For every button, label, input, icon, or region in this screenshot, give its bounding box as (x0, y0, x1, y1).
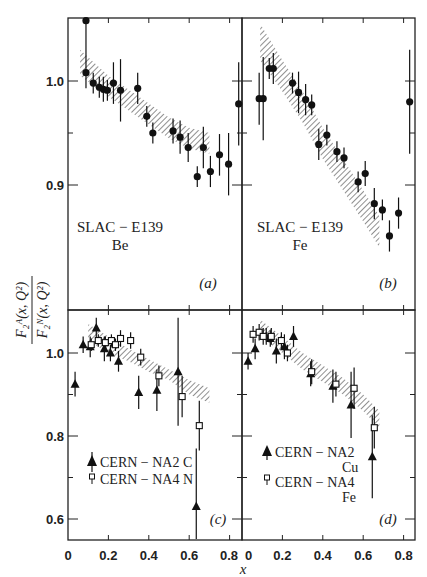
data-point-triangle (192, 502, 201, 511)
legend-entry-target: Fe (342, 490, 356, 505)
panel-title: SLAC − E139 (257, 219, 343, 235)
data-point-circle (362, 170, 369, 177)
legend-entry: CERN − NA2 (275, 445, 354, 460)
data-point-square (88, 342, 94, 348)
data-point-circle (395, 209, 402, 216)
data-point-circle (90, 79, 97, 86)
data-point-circle (185, 144, 192, 151)
data-point-circle (177, 134, 184, 141)
data-point-circle (333, 148, 340, 155)
theory-band-b (260, 24, 379, 248)
data-point-triangle (244, 356, 253, 365)
nuclear-structure-function-ratio-figure: 0.91.0(a)SLAC − E139Be(b)SLAC − E139Fe0.… (0, 0, 427, 577)
data-point-triangle (251, 344, 260, 353)
theory-band-d (260, 320, 379, 428)
svg-text:F₂ᴬ(x, Q²): F₂ᴬ(x, Q²) (14, 282, 30, 339)
panel-frame-a (68, 18, 242, 310)
data-point-circle (386, 232, 393, 239)
y-tick-label: 0.6 (46, 512, 64, 527)
data-point-triangle (368, 452, 377, 461)
panel-title: SLAC − E139 (77, 219, 163, 235)
data-point-circle (207, 168, 214, 175)
data-point-triangle (174, 367, 183, 376)
legend-entry: CERN − NA2 C (100, 455, 192, 470)
data-point-square (371, 425, 377, 431)
data-point-square (333, 381, 339, 387)
data-point-circle (82, 17, 89, 24)
legend-entry: CERN − NA4 (275, 475, 354, 490)
data-point-triangle (134, 387, 143, 396)
panel-label-d: (d) (379, 511, 397, 528)
data-point-circle (302, 96, 309, 103)
panel-frame-d (242, 310, 415, 540)
y-tick-label: 1.0 (46, 74, 64, 89)
data-point-square (112, 342, 118, 348)
data-point-circle (260, 95, 267, 102)
data-point-circle (315, 141, 322, 148)
data-point-square (309, 369, 315, 375)
data-point-square (260, 333, 266, 339)
x-tick-label: 0.8 (220, 548, 238, 563)
x-axis-label: x (239, 561, 247, 577)
panel-label-b: (b) (379, 275, 397, 292)
data-point-triangle (289, 331, 298, 340)
x-tick-label: 0 (64, 548, 71, 563)
data-point-circle (117, 87, 124, 94)
data-point-circle (216, 151, 223, 158)
data-point-square (118, 335, 124, 341)
panel-label-c: (c) (210, 511, 227, 528)
panel-subtitle: Fe (293, 237, 308, 253)
data-point-square (250, 331, 256, 337)
y-axis-label: F₂ᴬ(x, Q²)F₂ᴺ(x, Q²) (14, 276, 51, 344)
data-point-square (351, 385, 357, 391)
data-point-square (102, 340, 108, 346)
legend-entry-target: Cu (342, 460, 358, 475)
data-point-square (156, 373, 162, 379)
chart-canvas: 0.91.0(a)SLAC − E139Be(b)SLAC − E139Fe0.… (0, 0, 427, 577)
x-tick-label: 0.6 (180, 548, 198, 563)
data-point-circle (169, 127, 176, 134)
x-tick-label: 0.8 (395, 548, 413, 563)
x-tick-label: 0.4 (314, 548, 333, 563)
data-point-circle (371, 200, 378, 207)
data-point-triangle (79, 340, 88, 349)
data-point-circle (340, 154, 347, 161)
data-point-circle (323, 131, 330, 138)
legend-entry: CERN − NA4 N (100, 472, 193, 487)
data-point-triangle (71, 379, 80, 388)
data-point-square (179, 394, 185, 400)
x-tick-label: 0.6 (354, 548, 372, 563)
data-point-circle (308, 101, 315, 108)
x-tick-label: 0.4 (140, 548, 159, 563)
y-tick-label: 0.9 (46, 178, 64, 193)
data-point-circle (149, 129, 156, 136)
data-point-circle (295, 89, 302, 96)
data-point-circle (110, 79, 117, 86)
data-point-circle (200, 144, 207, 151)
x-tick-label: 0.2 (273, 548, 291, 563)
data-point-circle (194, 173, 201, 180)
theory-band-a (80, 50, 209, 154)
data-point-circle (406, 98, 413, 105)
data-point-circle (270, 65, 277, 72)
panel-subtitle: Be (112, 237, 129, 253)
x-tick-label: 0.2 (99, 548, 117, 563)
data-point-square (95, 338, 101, 344)
panel-label-a: (a) (199, 275, 217, 292)
svg-text:F₂ᴺ(x, Q²): F₂ᴺ(x, Q²) (35, 281, 51, 339)
y-tick-label: 0.8 (46, 429, 64, 444)
data-point-square (284, 350, 290, 356)
data-point-circle (235, 100, 242, 107)
data-point-square (138, 354, 144, 360)
data-point-square (128, 338, 134, 344)
y-tick-label: 1.0 (46, 346, 64, 361)
data-point-circle (143, 113, 150, 120)
data-point-circle (379, 206, 386, 213)
data-point-triangle (152, 385, 161, 394)
data-point-circle (82, 69, 89, 76)
theory-band-c (88, 324, 209, 403)
data-point-circle (355, 178, 362, 185)
data-point-square (196, 423, 202, 429)
data-point-circle (104, 87, 111, 94)
data-point-square (278, 338, 284, 344)
